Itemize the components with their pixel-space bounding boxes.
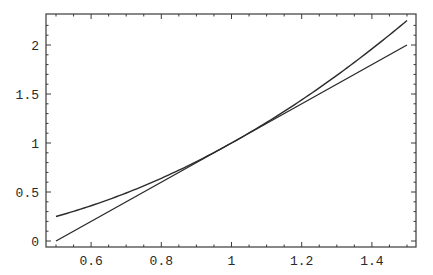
y-tick-label: 1.5 xyxy=(16,88,39,103)
x-tick-label: 1.4 xyxy=(360,254,384,269)
x-tick-label: 0.6 xyxy=(79,254,102,269)
series-lines xyxy=(56,21,407,242)
x-tick-label: 1.2 xyxy=(290,254,313,269)
series-line-curve xyxy=(56,21,407,217)
x-tick-label: 0.8 xyxy=(150,254,173,269)
y-tick-label: 2 xyxy=(31,39,39,54)
series-line-tangent xyxy=(56,45,407,241)
x-axis-tick-labels: 0.60.811.21.4 xyxy=(79,254,383,269)
line-chart: 0.60.811.21.4 00.511.52 xyxy=(0,0,433,275)
x-tick-label: 1 xyxy=(228,254,236,269)
axis-ticks xyxy=(46,14,416,247)
y-tick-label: 0 xyxy=(31,235,39,250)
y-tick-label: 1 xyxy=(31,137,39,152)
y-tick-label: 0.5 xyxy=(16,186,39,201)
plot-border xyxy=(46,14,416,247)
y-axis-tick-labels: 00.511.52 xyxy=(16,39,40,250)
plot-frame xyxy=(46,14,416,247)
